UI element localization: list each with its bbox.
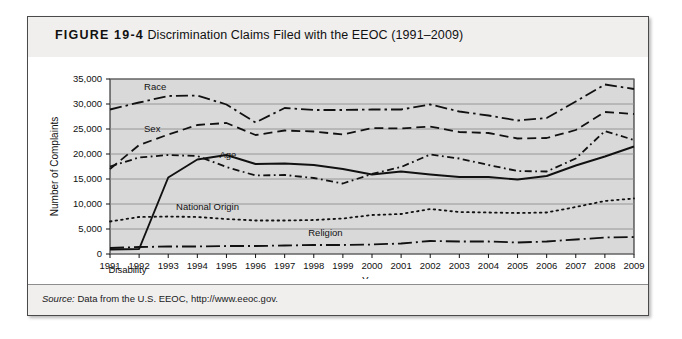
svg-text:1995: 1995 xyxy=(216,260,237,271)
series-label-sex: Sex xyxy=(144,123,161,134)
svg-text:1998: 1998 xyxy=(303,260,324,271)
x-axis-title: Year xyxy=(362,276,383,279)
figure-title-bar: FIGURE 19-4 Discrimination Claims Filed … xyxy=(28,17,648,57)
series-label-race: Race xyxy=(144,81,166,92)
series-label-religion: Religion xyxy=(308,227,342,238)
figure-card: FIGURE 19-4 Discrimination Claims Filed … xyxy=(27,16,649,316)
plot-background xyxy=(110,79,634,254)
svg-text:35,000: 35,000 xyxy=(73,73,102,84)
x-axis-ticks: 1991199219931994199519961997199819992000… xyxy=(99,254,644,271)
svg-text:2001: 2001 xyxy=(391,260,412,271)
series-label-national-origin: National Origin xyxy=(176,201,239,212)
svg-text:25,000: 25,000 xyxy=(73,123,102,134)
svg-text:2009: 2009 xyxy=(623,260,644,271)
figure-number: FIGURE 19-4 xyxy=(55,28,144,42)
svg-text:1997: 1997 xyxy=(274,260,295,271)
chart-region: 05,00010,00015,00020,00025,00030,00035,0… xyxy=(28,57,648,279)
svg-text:2005: 2005 xyxy=(507,260,528,271)
source-note: Source: Data from the U.S. EEOC, http://… xyxy=(42,293,278,304)
line-chart: 05,00010,00015,00020,00025,00030,00035,0… xyxy=(28,57,650,279)
y-axis-title: Number of Complaints xyxy=(49,117,60,216)
svg-text:1993: 1993 xyxy=(158,260,179,271)
source-bar: Source: Data from the U.S. EEOC, http://… xyxy=(28,285,648,315)
svg-text:20,000: 20,000 xyxy=(73,148,102,159)
figure-caption: Discrimination Claims Filed with the EEO… xyxy=(147,28,463,42)
svg-text:10,000: 10,000 xyxy=(73,198,102,209)
svg-text:0: 0 xyxy=(97,248,102,259)
svg-text:15,000: 15,000 xyxy=(73,173,102,184)
figure-title: FIGURE 19-4 Discrimination Claims Filed … xyxy=(55,28,463,42)
source-label: Source: xyxy=(42,293,75,304)
svg-text:30,000: 30,000 xyxy=(73,98,102,109)
svg-text:5,000: 5,000 xyxy=(78,223,102,234)
svg-text:2004: 2004 xyxy=(478,260,499,271)
svg-text:2007: 2007 xyxy=(565,260,586,271)
series-label-disability: Disability xyxy=(108,264,146,275)
svg-text:2006: 2006 xyxy=(536,260,557,271)
y-axis-ticks: 05,00010,00015,00020,00025,00030,00035,0… xyxy=(73,73,102,259)
svg-text:2002: 2002 xyxy=(420,260,441,271)
series-label-age: Age xyxy=(219,149,236,160)
source-text: Data from the U.S. EEOC, http://www.eeoc… xyxy=(75,293,278,304)
svg-text:2000: 2000 xyxy=(361,260,382,271)
svg-text:2008: 2008 xyxy=(594,260,615,271)
svg-text:2003: 2003 xyxy=(449,260,470,271)
svg-text:1996: 1996 xyxy=(245,260,266,271)
svg-text:1994: 1994 xyxy=(187,260,208,271)
svg-text:1999: 1999 xyxy=(332,260,353,271)
